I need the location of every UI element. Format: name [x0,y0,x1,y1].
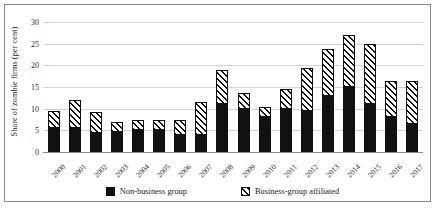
bar-segment-business-group-affiliated-2009[interactable] [238,93,250,109]
bar-group-2014[interactable] [343,35,355,152]
bar-segment-non-business-group-2011[interactable] [280,109,292,152]
x-tick-label-2006: 2006 [176,162,193,179]
y-tick-label-15: 15 [31,83,39,92]
x-tick-label-2001: 2001 [71,162,88,179]
chart-frame: Share of zombie firms (per cent) 0510152… [4,4,431,202]
gridline-0: 0 [43,152,423,153]
bar-segment-business-group-affiliated-2008[interactable] [216,70,228,105]
x-tick-label-2000: 2000 [50,162,67,179]
bar-group-2015[interactable] [364,44,376,152]
bar-group-2013[interactable] [322,49,334,152]
bar-segment-business-group-affiliated-2016[interactable] [385,81,397,118]
y-axis-title: Share of zombie firms (per cent) [5,5,25,157]
bar-segment-non-business-group-2004[interactable] [132,130,144,152]
bar-segment-non-business-group-2007[interactable] [195,135,207,152]
legend-item-business-group-affiliated: Business-group affiliated [241,187,339,196]
bar-segment-business-group-affiliated-2013[interactable] [322,49,334,95]
bar-segment-non-business-group-2016[interactable] [385,117,397,152]
bar-segment-non-business-group-2010[interactable] [259,117,271,152]
figure-container: Share of zombie firms (per cent) 0510152… [0,0,435,219]
plot-inner: 051015202530 [43,22,423,152]
legend-item-non-business-group: Non-business group [106,187,187,196]
bar-segment-non-business-group-2003[interactable] [111,132,123,152]
x-tick-label-2012: 2012 [303,162,320,179]
bar-segment-business-group-affiliated-2007[interactable] [195,102,207,135]
x-tick-label-2002: 2002 [92,162,109,179]
chart-legend: Non-business group Business-group affili… [9,181,435,201]
x-tick-label-2013: 2013 [324,162,341,179]
bar-segment-business-group-affiliated-2003[interactable] [111,122,123,132]
bar-segment-business-group-affiliated-2012[interactable] [301,68,313,111]
bar-segment-business-group-affiliated-2014[interactable] [343,35,355,87]
bar-segment-business-group-affiliated-2015[interactable] [364,44,376,105]
y-axis-title-label: Share of zombie firms (per cent) [11,26,20,136]
bar-segment-non-business-group-2014[interactable] [343,87,355,152]
bar-segment-business-group-affiliated-2000[interactable] [48,111,60,128]
bar-group-2003[interactable] [111,122,123,152]
bar-segment-business-group-affiliated-2010[interactable] [259,107,271,117]
bar-group-2010[interactable] [259,107,271,152]
bar-group-2012[interactable] [301,68,313,152]
legend-label-non-business-group: Non-business group [120,187,187,196]
bar-segment-non-business-group-2008[interactable] [216,104,228,152]
x-tick-label-2016: 2016 [387,162,404,179]
bar-group-2004[interactable] [132,120,144,152]
bar-group-2017[interactable] [406,81,418,152]
x-tick-label-2015: 2015 [366,162,383,179]
y-tick-label-25: 25 [31,39,39,48]
bar-segment-non-business-group-2000[interactable] [48,128,60,152]
x-tick-label-2008: 2008 [218,162,235,179]
bar-segment-business-group-affiliated-2017[interactable] [406,81,418,124]
bar-group-2016[interactable] [385,81,397,152]
bar-group-2007[interactable] [195,102,207,152]
y-tick-label-0: 0 [35,148,39,157]
x-tick-label-2009: 2009 [240,162,257,179]
bar-segment-business-group-affiliated-2004[interactable] [132,120,144,131]
x-tick-label-2010: 2010 [261,162,278,179]
y-tick-label-20: 20 [31,61,39,70]
y-tick-label-10: 10 [31,104,39,113]
bar-segment-non-business-group-2006[interactable] [174,135,186,152]
bar-group-2005[interactable] [153,120,165,152]
x-tick-label-2004: 2004 [134,162,151,179]
x-tick-label-2005: 2005 [155,162,172,179]
bar-segment-non-business-group-2005[interactable] [153,130,165,152]
bar-group-2002[interactable] [90,112,102,152]
legend-swatch-hatch-icon [241,187,250,196]
y-tick-label-5: 5 [35,126,39,135]
x-tick-label-2003: 2003 [113,162,130,179]
bar-group-2009[interactable] [238,93,250,152]
bar-segment-non-business-group-2015[interactable] [364,104,376,152]
bar-segment-business-group-affiliated-2001[interactable] [69,100,81,128]
bar-group-2006[interactable] [174,120,186,152]
legend-label-business-group-affiliated: Business-group affiliated [255,187,339,196]
bar-segment-non-business-group-2017[interactable] [406,124,418,152]
bar-segment-non-business-group-2002[interactable] [90,133,102,152]
bar-segment-business-group-affiliated-2002[interactable] [90,112,102,134]
bar-group-2001[interactable] [69,100,81,152]
x-tick-label-2014: 2014 [345,162,362,179]
bar-series-container [43,22,423,152]
bar-segment-non-business-group-2001[interactable] [69,128,81,152]
bar-segment-non-business-group-2009[interactable] [238,109,250,152]
bar-segment-non-business-group-2012[interactable] [301,111,313,152]
x-tick-label-2007: 2007 [197,162,214,179]
bar-group-2008[interactable] [216,70,228,152]
y-tick-label-30: 30 [31,18,39,27]
bar-segment-non-business-group-2013[interactable] [322,96,334,152]
bar-segment-business-group-affiliated-2011[interactable] [280,89,292,109]
x-tick-label-2017: 2017 [408,162,425,179]
bar-group-2000[interactable] [48,111,60,152]
plot-area: 051015202530 200020012002200320042005200… [43,22,423,152]
bar-segment-business-group-affiliated-2005[interactable] [153,120,165,130]
x-tick-label-2011: 2011 [282,162,299,179]
bar-group-2011[interactable] [280,89,292,152]
legend-swatch-solid-icon [106,187,115,196]
bar-segment-business-group-affiliated-2006[interactable] [174,120,186,134]
